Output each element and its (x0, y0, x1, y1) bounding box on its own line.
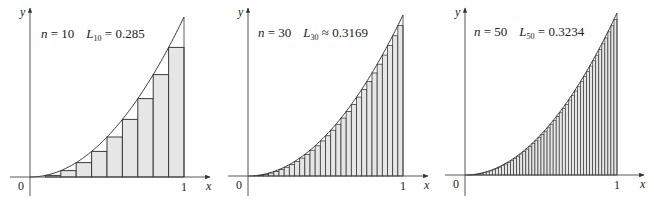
panel-n50: y x 0 1 n = 50L50 = 0.3234 (445, 5, 646, 196)
y-axis-label: y (237, 5, 244, 19)
riemann-rectangle (346, 111, 351, 176)
riemann-rectangle (107, 137, 122, 177)
panel-n30: y x 0 1 n = 30L30 ≈ 0.3169 (228, 5, 430, 196)
riemann-rectangle (284, 167, 289, 176)
riemann-rectangle (92, 151, 107, 177)
riemann-rectangle (584, 76, 587, 175)
riemann-rectangle (315, 146, 320, 176)
riemann-rectangle (541, 135, 544, 176)
riemann-rectangle (553, 121, 556, 175)
n-value: = 30 (265, 25, 292, 40)
riemann-rectangle (538, 138, 541, 175)
riemann-rectangle (169, 47, 184, 177)
riemann-rectangle (556, 117, 559, 175)
riemann-rectangle (596, 55, 599, 175)
riemann-rectangle (398, 26, 403, 176)
L-subscript: 10 (94, 34, 102, 43)
x-tick-0: 0 (453, 177, 459, 191)
riemann-rectangle (577, 86, 580, 175)
riemann-rectangle (153, 75, 168, 177)
riemann-rectangle (372, 73, 377, 176)
riemann-rectangle (511, 160, 514, 175)
riemann-rectangle (535, 141, 538, 175)
riemann-rectangle (295, 162, 300, 176)
L-relation: = (535, 24, 549, 39)
riemann-rectangle (517, 156, 520, 175)
n-value: = 10 (48, 26, 75, 41)
riemann-rectangle (300, 158, 305, 176)
riemann-rectangle (367, 81, 372, 176)
riemann-rectangle (320, 141, 325, 176)
riemann-rectangle (289, 165, 294, 176)
riemann-rectangle (326, 136, 331, 176)
riemann-sum-figure: y x 0 1 n = 10L10 = 0.285 y x 0 1 n = 30… (0, 0, 654, 208)
riemann-rectangle (501, 166, 504, 175)
riemann-rectangle (559, 113, 562, 175)
riemann-rectangle (495, 169, 498, 175)
sum-annotation: n = 30L30 ≈ 0.3169 (258, 25, 368, 42)
riemann-rectangle (341, 118, 346, 176)
riemann-rectangle (336, 124, 341, 176)
riemann-rectangle (138, 99, 153, 177)
riemann-rectangle (393, 36, 398, 176)
L-symbol: L (518, 24, 526, 39)
riemann-rectangle (565, 104, 568, 175)
riemann-rectangle (562, 109, 565, 175)
riemann-rectangle (310, 150, 315, 176)
riemann-rectangle (581, 81, 584, 175)
riemann-rectangle (508, 162, 511, 175)
riemann-rectangle (274, 172, 279, 176)
y-axis-label: y (19, 5, 26, 19)
riemann-rectangle (547, 128, 550, 175)
riemann-rectangle (489, 171, 492, 175)
L-symbol: L (85, 26, 93, 41)
n-value: = 50 (481, 24, 508, 39)
riemann-rectangle (590, 66, 593, 175)
riemann-rectangle (76, 163, 91, 177)
riemann-rectangle (568, 100, 571, 175)
riemann-rectangle (357, 97, 362, 176)
riemann-rectangle (593, 61, 596, 175)
sum-annotation: n = 10L10 = 0.285 (41, 26, 145, 43)
riemann-rectangle (614, 19, 617, 175)
rectangles (45, 17, 184, 177)
riemann-rectangle (279, 170, 284, 176)
riemann-rectangle (351, 104, 356, 176)
x-axis-label: x (639, 177, 646, 191)
L-value: 0.285 (115, 26, 144, 41)
riemann-rectangle (514, 158, 517, 175)
riemann-rectangle (587, 71, 590, 175)
riemann-rectangle (602, 44, 605, 175)
riemann-rectangle (532, 144, 535, 175)
L-subscript: 50 (527, 32, 535, 41)
riemann-rectangle (305, 154, 310, 176)
riemann-rectangle (505, 164, 508, 175)
riemann-rectangle (550, 124, 553, 175)
riemann-rectangle (122, 119, 137, 177)
riemann-rectangle (492, 170, 495, 175)
L-value: 0.3169 (332, 25, 368, 40)
riemann-rectangle (529, 146, 532, 175)
riemann-rectangle (520, 154, 523, 175)
riemann-rectangle (388, 46, 393, 176)
riemann-rectangle (526, 149, 529, 175)
riemann-rectangle (574, 91, 577, 175)
x-tick-1: 1 (614, 178, 620, 192)
riemann-rectangle (608, 32, 611, 175)
riemann-rectangle (599, 50, 602, 175)
x-axis-label: x (423, 178, 430, 192)
L-relation: = (102, 26, 116, 41)
riemann-rectangle (544, 131, 547, 175)
L-relation: ≈ (319, 25, 333, 40)
riemann-rectangle (486, 172, 489, 175)
y-axis-label: y (454, 5, 461, 19)
riemann-rectangle (377, 64, 382, 176)
panel-n10: y x 0 1 n = 10L10 = 0.285 (10, 5, 212, 196)
x-axis-label: x (205, 179, 212, 193)
riemann-rectangle (382, 55, 387, 176)
L-subscript: 30 (311, 33, 319, 42)
x-tick-1: 1 (400, 179, 406, 193)
riemann-rectangle (605, 38, 608, 175)
riemann-rectangle (331, 130, 336, 176)
riemann-rectangle (611, 26, 614, 175)
